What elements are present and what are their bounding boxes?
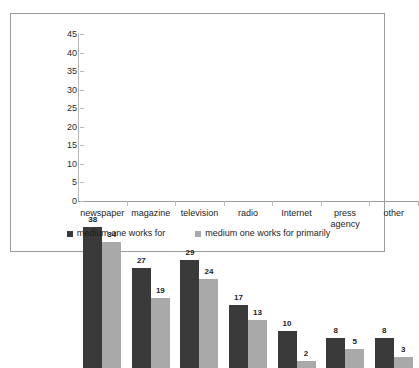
category-label: radio (224, 208, 273, 219)
y-axis-tick: 25 (45, 103, 89, 113)
bar-value-label: 10 (283, 319, 292, 329)
y-axis-tick-mark (80, 108, 84, 109)
y-axis-tick: 40 (45, 48, 89, 58)
y-axis-tick: 45 (45, 29, 89, 39)
bar-value-label: 24 (204, 267, 213, 277)
x-axis-separator (272, 201, 273, 206)
bars: 102 (278, 201, 316, 368)
bar-value-label: 29 (185, 248, 194, 258)
category-label: newspaper (78, 208, 127, 219)
bar[interactable]: 8 (375, 338, 394, 368)
bars: 2719 (132, 201, 170, 368)
bars: 2924 (180, 201, 218, 368)
y-axis-tick-mark (80, 90, 84, 91)
bars: 3834 (83, 201, 121, 368)
legend-swatch-icon (195, 231, 201, 237)
y-axis-tick-mark (80, 145, 84, 146)
category-label: magazine (127, 208, 176, 219)
category-label: other (369, 208, 418, 219)
legend-swatch-icon (67, 231, 73, 237)
y-axis-tick-label: 45 (67, 29, 77, 39)
bar[interactable]: 10 (278, 331, 297, 368)
bar[interactable]: 38 (83, 227, 102, 368)
y-axis-tick-label: 5 (72, 177, 77, 187)
y-axis-tick-label: 15 (67, 140, 77, 150)
bar[interactable]: 8 (326, 338, 345, 368)
plot-area: 454035302520151050 383427192924171310285… (45, 24, 382, 191)
bar-value-label: 13 (253, 308, 262, 318)
bars: 83 (375, 201, 413, 368)
x-axis-separator (224, 201, 225, 206)
y-axis-tick-label: 40 (67, 48, 77, 58)
legend-item[interactable]: medium one works for (67, 228, 166, 239)
x-axis-separator (321, 201, 322, 206)
bar-value-label: 8 (333, 326, 337, 336)
y-axis-tick: 5 (45, 177, 89, 187)
y-axis-tick-label: 30 (67, 85, 77, 95)
x-axis-separator (127, 201, 128, 206)
bars: 1713 (229, 201, 267, 368)
x-axis-separator (369, 201, 370, 206)
bar-value-label: 8 (382, 326, 386, 336)
bar[interactable]: 24 (199, 279, 218, 368)
y-axis-tick-mark (80, 127, 84, 128)
y-axis-tick: 30 (45, 85, 89, 95)
bar[interactable]: 13 (248, 320, 267, 368)
y-axis-tick-label: 20 (67, 122, 77, 132)
y-axis-tick-label: 25 (67, 103, 77, 113)
y-axis-tick-mark (80, 34, 84, 35)
bar-value-label: 19 (156, 286, 165, 296)
category-label: Internet (272, 208, 321, 219)
y-axis-tick: 15 (45, 140, 89, 150)
category-label: press agency (321, 208, 370, 230)
clipped-caption-sliver (18, 0, 348, 7)
y-axis-tick-mark (80, 53, 84, 54)
bar[interactable]: 5 (345, 349, 364, 368)
bar-value-label: 3 (401, 345, 405, 355)
bar[interactable]: 27 (132, 268, 151, 368)
legend-label: medium one works for (77, 228, 166, 239)
bar[interactable]: 34 (102, 242, 121, 368)
legend-label: medium one works for primarily (205, 228, 330, 239)
bar[interactable]: 2 (297, 361, 316, 368)
bar-value-label: 2 (304, 349, 308, 359)
y-axis-tick-mark (80, 164, 84, 165)
bar[interactable]: 17 (229, 305, 248, 368)
legend-item[interactable]: medium one works for primarily (195, 228, 330, 239)
y-axis-tick: 35 (45, 66, 89, 76)
bar-value-label: 17 (234, 293, 243, 303)
y-axis-tick-mark (80, 71, 84, 72)
category-label: television (175, 208, 224, 219)
chart-frame: 454035302520151050 383427192924171310285… (10, 13, 385, 252)
y-axis-tick-label: 10 (67, 159, 77, 169)
bar-value-label: 27 (137, 256, 146, 266)
y-axis-tick: 10 (45, 159, 89, 169)
bar[interactable]: 3 (394, 357, 413, 368)
bar-value-label: 5 (352, 337, 356, 347)
x-axis-separator (175, 201, 176, 206)
y-axis-tick-label: 0 (72, 196, 77, 206)
bar[interactable]: 29 (180, 260, 199, 368)
y-axis-tick-mark (80, 182, 84, 183)
y-axis-tick-label: 35 (67, 66, 77, 76)
y-axis-tick: 20 (45, 122, 89, 132)
chart-legend: medium one works formedium one works for… (11, 228, 386, 239)
bar[interactable]: 19 (151, 298, 170, 368)
